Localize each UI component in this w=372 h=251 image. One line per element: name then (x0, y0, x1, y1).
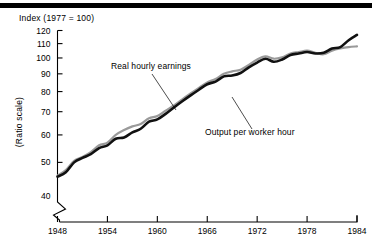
series-line-output-per-worker-hour (58, 35, 358, 177)
axis-break-symbol (54, 196, 66, 222)
x-axis-tick-label: 1978 (298, 226, 317, 236)
x-axis-tick-label: 1984 (348, 226, 367, 236)
y-axis-tick-label: 90 (41, 69, 51, 79)
y-axis-tick-label: 120 (36, 26, 50, 36)
data-series-group (58, 35, 358, 177)
x-axis-tick-label: 1948 (48, 226, 67, 236)
x-axis-tick-label: 1972 (248, 226, 267, 236)
y-axis-tick-label: 40 (41, 191, 51, 201)
series-annotation-label: Real hourly earnings (111, 61, 191, 71)
y-axis-tick-label: 80 (41, 87, 51, 97)
y-axis-tick-label: 70 (41, 107, 51, 117)
y-axis-tick-label: 110 (37, 39, 51, 49)
annotation-leader-line (232, 97, 252, 129)
series-line-real-hourly-earnings (58, 46, 358, 175)
annotation-leader-line (152, 74, 176, 110)
x-axis-tick-label: 1966 (198, 226, 217, 236)
y-axis-tick-label: 50 (41, 157, 51, 167)
chart-plot-area: 405060708090100110120 194819541960196619… (0, 0, 372, 251)
x-axis-tick-label: 1954 (98, 226, 117, 236)
y-axis-tick-label: 100 (36, 53, 50, 63)
x-axis-line (60, 215, 358, 222)
y-axis-tick-label: 60 (41, 130, 51, 140)
x-axis-tick-group: 1948195419601966197219781984 (48, 216, 367, 236)
series-annotation-label: Output per worker hour (205, 127, 295, 137)
x-axis-tick-label: 1960 (148, 226, 167, 236)
figure-container: Index (1977 = 100) (Ratio scale) 4050607… (0, 0, 372, 251)
